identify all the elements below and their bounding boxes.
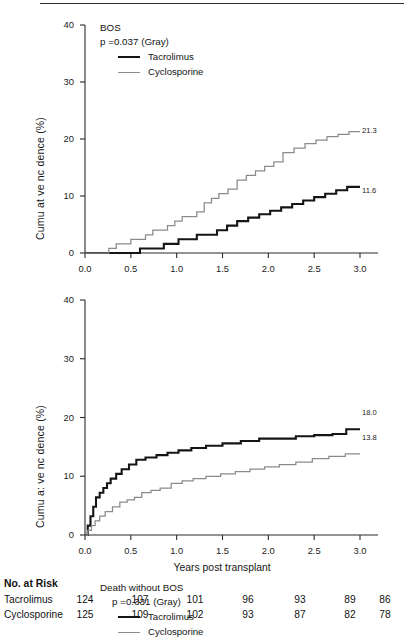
legend-pvalue-bos: p =0.037 (Gray) (100, 36, 203, 49)
risk-cell: 101 (178, 594, 212, 605)
risk-row-label-cyclosporine: Cyclosporine (4, 609, 63, 620)
x-axis-tick-label: 1.5 (208, 263, 238, 274)
risk-cell: 78 (368, 609, 402, 620)
y-axis-title-bos: Cumu at ve nc dence (%) (34, 117, 46, 240)
curve-cyclosporine (85, 132, 360, 253)
x-axis-tick-label: 1.5 (208, 545, 238, 556)
x-axis-tick-label: 3.0 (345, 545, 375, 556)
x-axis-tick-label: 2.5 (299, 263, 329, 274)
legend-bos: BOS p =0.037 (Gray) Tacrolimus Cyclospor… (100, 22, 203, 79)
legend-label-cyclosporine-death: Cyclosporine (148, 626, 203, 638)
table-row: Tacrolimus 12410710196938986 (0, 594, 404, 609)
risk-cell: 87 (283, 609, 317, 620)
risk-cell: 107 (123, 594, 157, 605)
x-axis-tick-label: 0.5 (116, 545, 146, 556)
curve-tacrolimus (85, 187, 360, 253)
x-axis-tick-label: 0.0 (70, 545, 100, 556)
y-axis-tick-label: 20 (52, 412, 74, 423)
y-axis-tick-label: 20 (52, 133, 74, 144)
legend-label-tacrolimus-bos: Tacrolimus (148, 51, 194, 63)
x-axis-tick-label: 0.5 (116, 263, 146, 274)
no-at-risk-title: No. at Risk (4, 578, 58, 589)
x-axis-tick-label: 1.0 (162, 263, 192, 274)
legend-line-swatch-cyclosporine-icon (118, 72, 140, 74)
risk-cell: 125 (68, 609, 102, 620)
y-axis-tick-label: 10 (52, 470, 74, 481)
risk-cell: 82 (333, 609, 367, 620)
legend-line-swatch-tacrolimus-icon (118, 56, 140, 59)
legend-entry-tacrolimus-bos: Tacrolimus (118, 51, 203, 63)
risk-cell: 86 (368, 594, 402, 605)
risk-cell: 109 (123, 609, 157, 620)
y-axis-tick-label: 0 (52, 247, 74, 258)
endpoint-label-cyclosporine-death: 13.8 (362, 433, 377, 442)
curve-cyclosporine (85, 454, 360, 535)
x-axis-tick-label: 0.0 (70, 263, 100, 274)
y-axis-tick-label: 30 (52, 353, 74, 364)
x-axis-tick-label: 2.5 (299, 545, 329, 556)
x-axis-tick-label: 3.0 (345, 263, 375, 274)
risk-cell: 124 (68, 594, 102, 605)
x-axis-tick-label: 2.0 (253, 263, 283, 274)
table-row: Cyclosporine 12510910293878278 (0, 609, 404, 624)
y-axis-tick-label: 40 (52, 19, 74, 30)
legend-title-death: Death without BOS (100, 582, 203, 595)
legend-label-cyclosporine-bos: Cyclosporine (148, 66, 203, 78)
endpoint-label-tacrolimus-bos: 11.6 (362, 186, 376, 195)
risk-cell: 93 (283, 594, 317, 605)
legend-entry-cyclosporine-bos: Cyclosporine (118, 66, 203, 78)
y-axis-tick-label: 10 (52, 190, 74, 201)
curve-tacrolimus (85, 429, 360, 535)
y-axis-tick-label: 0 (52, 529, 74, 540)
x-axis-tick-label: 1.0 (162, 545, 192, 556)
y-axis-tick-label: 30 (52, 76, 74, 87)
y-axis-title-death: Cumu a: ve nc dence (%) (34, 405, 46, 528)
risk-row-label-tacrolimus: Tacrolimus (4, 594, 53, 605)
legend-line-swatch-cyclosporine-icon (118, 632, 140, 634)
risk-cell: 96 (231, 594, 265, 605)
x-axis-tick-label: 2.0 (253, 545, 283, 556)
risk-cell: 102 (178, 609, 212, 620)
risk-cell: 93 (231, 609, 265, 620)
risk-cell: 89 (333, 594, 367, 605)
y-axis-tick-label: 40 (52, 294, 74, 305)
endpoint-label-cyclosporine-bos: 21.3 (362, 126, 377, 135)
x-axis-title: Years post transplant (174, 562, 271, 573)
endpoint-label-tacrolimus-death: 18.0 (362, 408, 377, 417)
legend-entry-cyclosporine-death: Cyclosporine (118, 626, 203, 638)
legend-title-bos: BOS (100, 22, 203, 35)
